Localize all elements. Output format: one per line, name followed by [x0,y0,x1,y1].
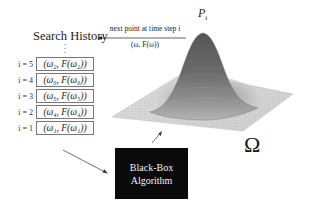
black-box-line2: Algorithm [131,174,173,187]
next-point-label: next point at time step i [101,24,189,33]
history-row-value: (ω₄, F(ω₄)) [43,107,86,117]
domain-label: Ω [244,132,260,158]
history-row: i = 3 (ω₅, F(ω₅)) [36,89,94,103]
history-row-value: (ω₁, F(ω₁)) [43,123,86,133]
history-row: i = 1 (ω₁, F(ω₁)) [36,121,94,135]
history-row-index: i = 3 [3,90,33,103]
history-row-index: i = 2 [3,106,33,119]
history-row: i = 2 (ω₄, F(ω₄)) [36,105,94,119]
history-row: i = 5 (ω₂, F(ω₂)) [36,57,94,71]
diagram-root: Search History ··· i = 5 (ω₂, F(ω₂)) i =… [0,0,309,208]
next-point-value: (ω, F(ω)) [101,40,189,49]
history-row-index: i = 1 [3,122,33,135]
history-row: i = 4 (ω₀, F(ω₀)) [36,73,94,87]
black-box-line1: Black-Box [130,161,173,174]
ellipsis-icon: ··· [62,42,68,54]
history-row-value: (ω₅, F(ω₅)) [43,91,86,101]
history-row-index: i = 4 [3,74,33,87]
history-row-index: i = 5 [3,58,33,71]
arrow-up-right-icon [152,131,162,143]
history-row-value: (ω₀, F(ω₀)) [43,75,86,85]
black-box-algorithm: Black-Box Algorithm [115,148,188,199]
peak-label: Pi [198,6,207,22]
arrow-down-right-icon [63,150,108,174]
search-history-title: Search History [33,29,108,44]
peak-label-subscript: i [205,14,207,22]
history-row-value: (ω₂, F(ω₂)) [43,59,86,69]
search-history-table: i = 5 (ω₂, F(ω₂)) i = 4 (ω₀, F(ω₀)) i = … [36,57,94,137]
